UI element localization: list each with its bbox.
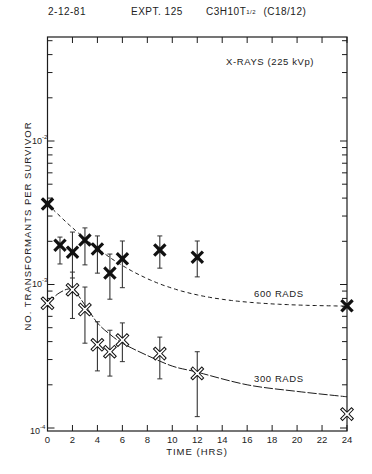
x-tick-label: 8 xyxy=(145,434,150,445)
x-tick-label: 12 xyxy=(192,434,203,445)
y-axis-label: NO. TRANSFORMANTS PER SURVIVOR xyxy=(22,121,33,330)
header-cell-line: C3H10T1/2 (C18/12) xyxy=(206,6,306,17)
error-bars xyxy=(57,228,199,417)
cell-line-fraction: 1/2 xyxy=(246,9,256,15)
x-tick-label: 20 xyxy=(292,434,303,445)
series-label-300-rads: 300 RADS xyxy=(254,373,304,384)
series-label-600-rads: 600 RADS xyxy=(254,288,304,299)
y-tick-label-1e-4: 10-4 xyxy=(30,424,45,436)
x-tick-label: 18 xyxy=(267,434,278,445)
x-tick-label: 24 xyxy=(342,434,353,445)
x-axis-label: TIME (HRS) xyxy=(166,446,228,457)
x-tick-label: 22 xyxy=(317,434,328,445)
y-tick-label-1e-2: 10-2 xyxy=(32,134,47,146)
x-tick-label: 16 xyxy=(242,434,253,445)
x-tick-label: 6 xyxy=(120,434,125,445)
header-experiment: EXPT. 125 xyxy=(131,6,183,17)
y-tick-label-1e-3: 10-3 xyxy=(32,277,47,289)
x-tick-label: 0 xyxy=(45,434,50,445)
x-tick-label: 4 xyxy=(95,434,100,445)
x-tick-label: 10 xyxy=(167,434,178,445)
cell-line-name: C3H10T xyxy=(206,6,246,17)
cell-line-clone: (C18/12) xyxy=(263,6,306,17)
radiation-annotation: X-RAYS (225 kVp) xyxy=(226,56,314,67)
header-date: 2-12-81 xyxy=(48,6,86,17)
x-tick-label: 2 xyxy=(70,434,75,445)
chart-plot-area xyxy=(0,0,372,474)
x-tick-label: 14 xyxy=(217,434,228,445)
